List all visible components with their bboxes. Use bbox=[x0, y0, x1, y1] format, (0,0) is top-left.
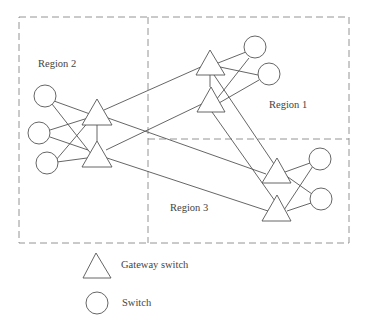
gateway-switch-icon bbox=[196, 50, 225, 75]
gateway-switch-icon bbox=[262, 158, 291, 183]
switch-icon bbox=[34, 85, 56, 107]
network-diagram bbox=[0, 0, 367, 330]
switch-icon bbox=[244, 36, 266, 58]
region-2-label: Region 2 bbox=[38, 59, 76, 70]
legend-switch-icon bbox=[86, 292, 108, 314]
gateway-switch-icon bbox=[197, 87, 225, 112]
switch-icon bbox=[310, 188, 332, 210]
switch-icon bbox=[309, 148, 331, 170]
switch-icon bbox=[28, 122, 50, 144]
gateway-switch-icon bbox=[82, 141, 112, 167]
switch-icon bbox=[258, 63, 280, 85]
legend-switch-label: Switch bbox=[122, 298, 151, 309]
legend-gateway-label: Gateway switch bbox=[121, 260, 188, 271]
legend-gateway-icon bbox=[83, 253, 111, 278]
region-1-label: Region 1 bbox=[269, 100, 307, 111]
region-3-label: Region 3 bbox=[170, 203, 208, 214]
gateway-switch-icon bbox=[82, 99, 112, 125]
legend bbox=[83, 253, 111, 314]
switch-icon bbox=[36, 152, 58, 174]
gateway-switch-icon bbox=[262, 195, 291, 221]
